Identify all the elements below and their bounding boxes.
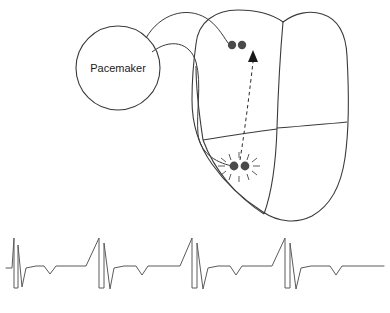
conduction-arrow-head <box>248 50 258 62</box>
atrial-electrode-dot-1 <box>228 41 236 49</box>
heart-septum-horizontal-right <box>277 122 347 128</box>
ventricular-electrode-dot-1 <box>230 162 239 171</box>
ecg-waveform <box>6 238 384 289</box>
heart-septum-vertical <box>264 22 283 214</box>
heart-apex-curve <box>203 140 264 214</box>
heart-septum-horizontal-left <box>203 129 277 140</box>
atrial-electrode-dot-2 <box>238 41 246 49</box>
ecg-chart <box>6 238 384 289</box>
pacemaker-label: Pacemaker <box>90 62 146 74</box>
heart-diagram <box>192 10 348 221</box>
ventricular-electrode-dot-2 <box>241 162 250 171</box>
pacemaker-ecg-figure: Pacemaker <box>0 0 390 313</box>
heart-left-wall-inner <box>196 66 203 140</box>
heart-outline <box>192 10 348 221</box>
pacemaker-device[interactable]: Pacemaker <box>76 26 160 110</box>
conduction-arrow-line <box>240 62 253 160</box>
conduction-arrow <box>240 50 258 160</box>
atrial-electrode[interactable] <box>228 41 246 49</box>
lead-wires <box>146 12 232 166</box>
atrial-lead <box>146 12 228 43</box>
